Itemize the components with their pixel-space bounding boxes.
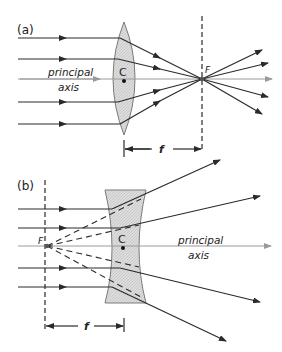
panel-b: (b) F <box>17 160 271 341</box>
panel-b-label: (b) <box>17 179 34 193</box>
panel-a: (a) F C <box>17 16 272 157</box>
focus-point-b <box>45 244 49 248</box>
axis-label-a-2: axis <box>58 81 80 93</box>
axis-label-a-1: principal <box>47 66 93 78</box>
focal-length-dimension-a: f <box>124 140 201 157</box>
incident-rays-b <box>18 209 120 287</box>
panel-a-label: (a) <box>17 23 34 37</box>
focus-label-a: F <box>205 65 211 75</box>
lens-center-a <box>122 79 126 83</box>
focus-point-a <box>200 77 204 81</box>
axis-label-b-2: axis <box>188 249 210 261</box>
focus-label-b: F <box>38 236 44 246</box>
axis-label-b-1: principal <box>177 234 223 246</box>
focal-length-dimension-b: f <box>46 318 124 333</box>
focal-length-label-b: f <box>84 320 90 333</box>
lens-diagram: (a) F C <box>0 0 282 352</box>
refracted-rays-a <box>118 38 268 124</box>
center-label-b: C <box>118 233 126 246</box>
focal-length-label-a: f <box>159 143 165 156</box>
center-label-a: C <box>119 66 127 79</box>
lens-center-b <box>121 246 125 250</box>
